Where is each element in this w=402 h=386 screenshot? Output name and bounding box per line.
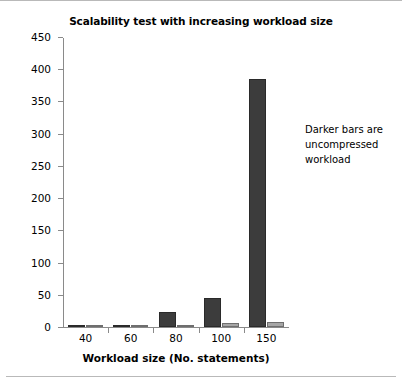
x-tick-label: 150 bbox=[256, 332, 276, 344]
bar-100-compressed bbox=[222, 323, 239, 328]
y-tick-label: 100 bbox=[31, 257, 51, 269]
y-tick-label: 200 bbox=[31, 192, 51, 204]
y-tick: 400 bbox=[58, 69, 63, 70]
annotation-line-1: Darker bars are bbox=[305, 122, 397, 137]
y-tick: 50 bbox=[58, 295, 63, 296]
bar-80-compressed bbox=[177, 325, 194, 327]
bar-150-compressed bbox=[267, 322, 284, 327]
annotation-line-2: uncompressed bbox=[305, 137, 397, 152]
chart-figure: Scalability test with increasing workloa… bbox=[0, 0, 402, 386]
x-tick bbox=[199, 328, 200, 333]
bar-40-uncompressed bbox=[68, 325, 85, 327]
footer-divider bbox=[6, 376, 396, 377]
y-tick: 0 bbox=[58, 327, 63, 328]
x-axis-label: Workload size (No. statements) bbox=[40, 352, 312, 364]
bar-40-compressed bbox=[86, 325, 103, 327]
y-axis-line bbox=[63, 38, 64, 328]
x-tick bbox=[153, 328, 154, 333]
y-tick-label: 400 bbox=[31, 63, 51, 75]
y-tick-label: 0 bbox=[44, 321, 51, 333]
y-tick: 300 bbox=[58, 134, 63, 135]
y-tick: 250 bbox=[58, 166, 63, 167]
annotation-line-3: workload bbox=[305, 152, 397, 167]
x-tick bbox=[108, 328, 109, 333]
x-tick bbox=[244, 328, 245, 333]
y-tick-label: 300 bbox=[31, 128, 51, 140]
x-tick-label: 80 bbox=[169, 332, 182, 344]
y-tick-label: 50 bbox=[38, 289, 51, 301]
chart-annotation: Darker bars are uncompressed workload bbox=[305, 122, 397, 167]
y-tick: 200 bbox=[58, 198, 63, 199]
bar-60-uncompressed bbox=[113, 325, 130, 327]
bar-100-uncompressed bbox=[204, 298, 221, 327]
x-tick-label: 100 bbox=[211, 332, 231, 344]
y-tick: 150 bbox=[58, 230, 63, 231]
bar-60-compressed bbox=[131, 325, 148, 327]
y-tick-label: 250 bbox=[31, 160, 51, 172]
y-tick-label: 150 bbox=[31, 224, 51, 236]
y-tick-label: 350 bbox=[31, 95, 51, 107]
y-tick: 100 bbox=[58, 263, 63, 264]
x-tick-label: 40 bbox=[79, 332, 92, 344]
plot-area: 050100150200250300350400450 406080100150 bbox=[63, 38, 289, 328]
bar-80-uncompressed bbox=[159, 312, 176, 327]
y-tick-label: 450 bbox=[31, 31, 51, 43]
x-axis-line bbox=[63, 327, 289, 328]
chart-title: Scalability test with increasing workloa… bbox=[0, 15, 402, 27]
bar-150-uncompressed bbox=[249, 79, 266, 327]
x-tick-label: 60 bbox=[124, 332, 137, 344]
y-tick: 450 bbox=[58, 37, 63, 38]
y-tick: 350 bbox=[58, 101, 63, 102]
